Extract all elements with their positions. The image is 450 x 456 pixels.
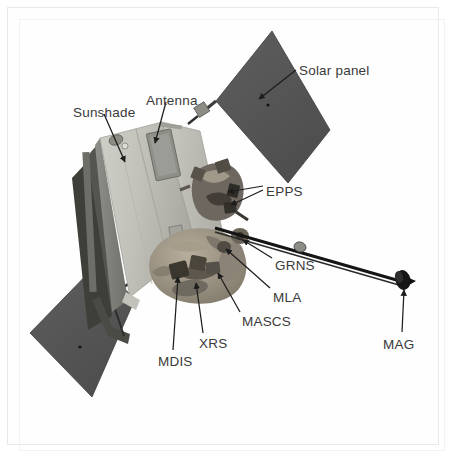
label-mascs: MASCS	[242, 315, 291, 329]
solar-panel-upper	[188, 31, 330, 183]
label-mag: MAG	[383, 338, 414, 352]
label-grns: GRNS	[275, 259, 315, 273]
label-mla: MLA	[273, 291, 301, 305]
label-mdis: MDIS	[158, 355, 193, 369]
label-xrs: XRS	[199, 337, 227, 351]
label-solar-panel: Solar panel	[299, 64, 370, 78]
label-antenna: Antenna	[146, 94, 198, 108]
label-sunshade: Sunshade	[73, 106, 135, 120]
spacecraft-diagram-figure: Solar panelAntennaSunshadeEPPSGRNSMLAMAS…	[0, 0, 450, 456]
mascs-instrument	[205, 261, 220, 274]
spacecraft-illustration	[0, 0, 450, 456]
label-epps: EPPS	[266, 185, 303, 199]
leader-mag	[402, 290, 404, 332]
xrs-instrument	[189, 255, 207, 272]
